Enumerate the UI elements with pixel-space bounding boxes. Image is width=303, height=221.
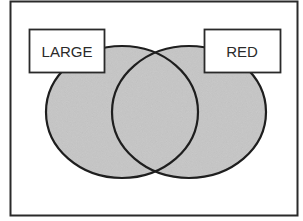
set-label-red-text: RED: [226, 43, 258, 60]
set-label-large: LARGE: [30, 30, 105, 73]
venn-diagram: LARGE RED: [0, 0, 303, 221]
set-label-red: RED: [205, 30, 281, 73]
set-label-large-text: LARGE: [42, 43, 93, 60]
